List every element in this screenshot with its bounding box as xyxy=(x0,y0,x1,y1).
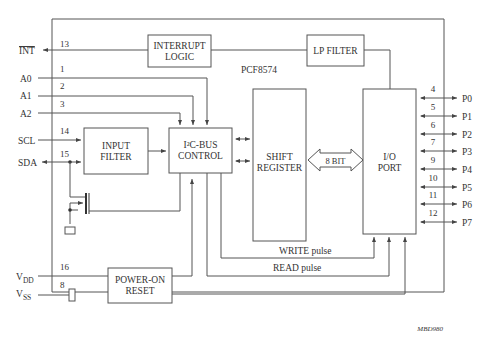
pin-label-p0: P0 xyxy=(462,94,472,104)
figure-id: MBD980 xyxy=(416,325,443,333)
pin-number-15: 15 xyxy=(60,149,70,159)
pin-label-scl: SCL xyxy=(18,136,36,146)
write-pulse-label: WRITE pulse xyxy=(279,246,332,256)
source-junction xyxy=(68,208,72,212)
wire-io-to-lp xyxy=(364,50,390,89)
shift-register-label-2: REGISTER xyxy=(257,163,303,173)
pin-number-8: 8 xyxy=(60,280,65,290)
pin-number-13: 13 xyxy=(60,39,70,49)
pin-label-int: INT xyxy=(19,46,35,56)
pin-label-a2: A2 xyxy=(20,109,32,119)
power-on-reset-label-1: POWER-ON xyxy=(115,275,165,285)
io-port-label-2: PORT xyxy=(378,163,402,173)
power-on-reset-label-2: RESET xyxy=(125,286,154,296)
i2c-control-label-2: CONTROL xyxy=(178,151,223,161)
interrupt-logic-block xyxy=(148,35,211,67)
pin-number-12: 12 xyxy=(429,208,438,218)
wire-i2c-to-gate xyxy=(89,173,180,211)
pin-number-3: 3 xyxy=(60,99,65,109)
pin-label-p1: P1 xyxy=(462,112,472,122)
i2c-control-label-1: I²C-BUS xyxy=(184,140,218,150)
pin-number-5: 5 xyxy=(431,102,436,112)
pin-label-vdd: VDD xyxy=(16,272,34,285)
pin-label-sda: SDA xyxy=(18,158,37,168)
interrupt-logic-label-1: INTERRUPT xyxy=(153,41,205,51)
input-filter-block xyxy=(84,128,148,174)
pin-label-p3: P3 xyxy=(462,147,472,157)
pin-label-p7: P7 xyxy=(462,218,472,228)
pin-label-p5: P5 xyxy=(462,183,472,193)
block-diagram: PCF8574 INTERRUPT LOGIC LP FILTER INT 13… xyxy=(0,0,486,341)
ground-pad-icon xyxy=(65,227,75,234)
pin-label-p6: P6 xyxy=(462,200,472,210)
pin-label-vss: VSS xyxy=(16,289,31,302)
pin-label-a1: A1 xyxy=(20,91,32,101)
lp-filter-label: LP FILTER xyxy=(313,46,358,56)
io-port-label-1: I/O xyxy=(383,152,396,162)
pin-number-2: 2 xyxy=(60,81,65,91)
right-pins: 4 P0 5 P1 6 P2 7 P3 9 P4 10 P5 11 P6 12 … xyxy=(421,84,472,228)
bus-width-label: 8 BIT xyxy=(325,156,346,166)
read-pulse-label: READ pulse xyxy=(273,263,321,273)
wire-a2 xyxy=(38,113,180,125)
pin-number-7: 7 xyxy=(431,137,436,147)
input-filter-label-1: INPUT xyxy=(102,141,130,151)
pin-number-9: 9 xyxy=(431,155,436,165)
pin-number-4: 4 xyxy=(431,84,436,94)
pin-number-6: 6 xyxy=(431,120,436,130)
pin-label-a0: A0 xyxy=(20,74,32,84)
pin-label-p2: P2 xyxy=(462,130,472,140)
pin-number-14: 14 xyxy=(60,126,70,136)
interrupt-logic-label-2: LOGIC xyxy=(165,52,194,62)
input-filter-label-2: FILTER xyxy=(100,152,132,162)
pin-label-p4: P4 xyxy=(462,165,472,175)
shift-register-label-1: SHIFT xyxy=(266,152,293,162)
pin-number-11: 11 xyxy=(429,190,438,200)
chip-name: PCF8574 xyxy=(241,65,277,75)
pin-number-16: 16 xyxy=(60,262,70,272)
vss-pad-icon xyxy=(69,289,75,301)
pin-number-10: 10 xyxy=(429,173,439,183)
wire-por-to-i2c xyxy=(172,179,192,276)
pin-number-1: 1 xyxy=(60,64,65,74)
